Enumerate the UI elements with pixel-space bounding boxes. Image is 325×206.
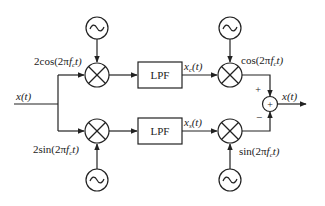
top-filter-output-label: xc(t) [183, 60, 203, 74]
lpf-bottom-label: LPF [151, 125, 170, 137]
oscillator-top-right [219, 17, 241, 39]
bottom-carrier-label: 2sin(2πfct) [33, 143, 79, 157]
lpf-bottom: LPF [138, 118, 182, 144]
multiplier-bottom-left [85, 119, 109, 143]
oscillator-bottom-left [86, 169, 108, 191]
multiplier-top-right [218, 63, 242, 87]
output-label: x(t) [281, 90, 298, 103]
bottom-filter-output-label: xs(t) [183, 116, 202, 130]
summing-junction: + [263, 97, 278, 112]
top-carrier-label: 2cos(2πfct) [34, 55, 82, 69]
input-label: x(t) [15, 90, 32, 103]
lpf-top-label: LPF [151, 69, 170, 81]
lpf-top: LPF [138, 62, 182, 88]
oscillator-top-left [86, 17, 108, 39]
summer-bottom-sign: − [256, 111, 262, 123]
bottom-remod-label: sin(2πfct) [239, 145, 280, 159]
oscillator-bottom-right [219, 169, 241, 191]
multiplier-top-left [85, 63, 109, 87]
multiplier-bottom-right [218, 119, 242, 143]
block-diagram: LPF LPF + + − x(t) x(t) 2cos(2πfct) xc(t… [0, 0, 325, 206]
top-remod-label: cos(2πfct) [241, 54, 284, 68]
summer-plus-symbol: + [267, 99, 273, 110]
summer-top-sign: + [255, 84, 261, 95]
